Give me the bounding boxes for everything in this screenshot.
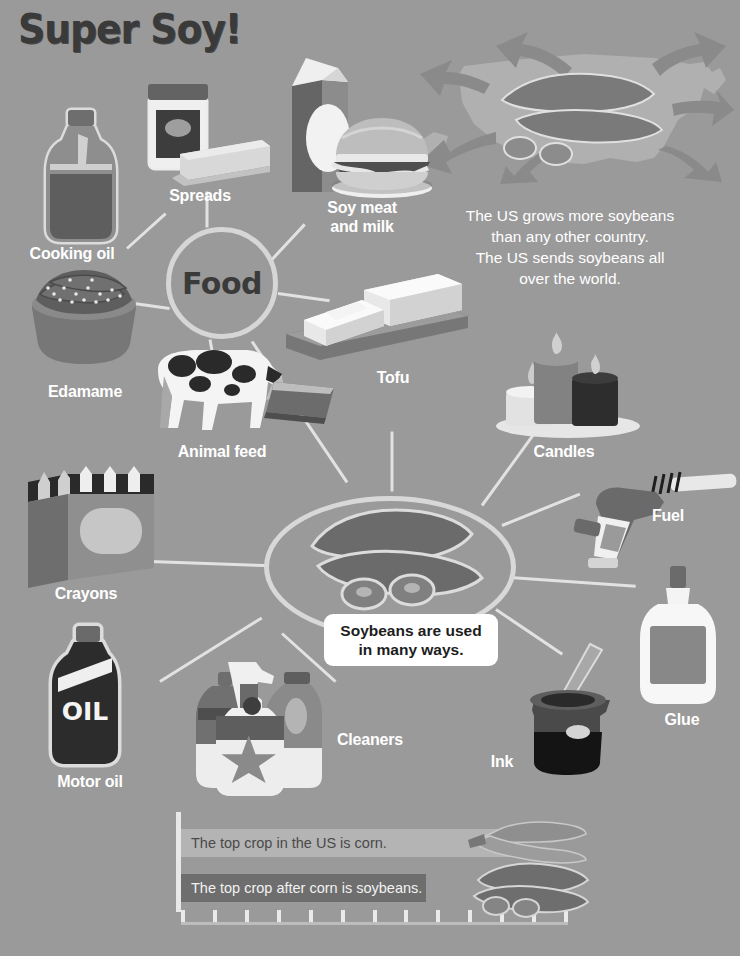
chart-bar-corn: The top crop in the US is corn. [181,829,511,857]
item-animal-feed[interactable] [148,340,338,440]
glue-bottle-icon [636,566,724,716]
item-cleaners[interactable] [196,650,328,798]
chart-bar-soybeans-label: The top crop after corn is soybeans. [181,880,422,896]
cow-trough-icon [148,340,338,440]
label-cooking-oil: Cooking oil [8,244,136,263]
item-motor-oil[interactable]: OIL [44,624,134,770]
page-title: Super Soy! [18,6,241,52]
label-motor-oil: Motor oil [30,772,150,791]
crayon-box-icon [22,468,162,592]
item-crayons[interactable] [22,468,162,592]
oil-bottle-icon [38,108,124,248]
motor-oil-bottle-icon: OIL [44,624,134,770]
jar-and-butter-icon [144,80,274,190]
label-candles: Candles [504,442,624,461]
chart-bar-corn-label: The top crop in the US is corn. [181,835,387,851]
cleaning-bottles-icon [196,650,328,798]
soybeans-callout: Soybeans are used in many ways. [324,614,498,666]
label-soy-meat-and-milk: Soy meat and milk [296,198,428,236]
label-fuel: Fuel [636,506,700,525]
label-tofu: Tofu [348,368,438,387]
label-cleaners: Cleaners [320,730,420,749]
connector-line [150,560,266,567]
label-ink: Ink [472,752,532,771]
item-candles[interactable] [494,336,640,440]
candles-icon [494,336,640,440]
label-glue: Glue [644,710,720,729]
milk-carton-burger-icon [282,52,432,200]
item-cooking-oil[interactable] [38,108,124,248]
chart-bar-soybeans: The top crop after corn is soybeans. [181,874,426,902]
item-glue[interactable] [636,566,724,716]
item-soy-meat-and-milk[interactable] [282,52,432,200]
label-animal-feed: Animal feed [142,442,302,461]
soybean-pod-icon [300,504,490,616]
chart-x-axis [181,922,568,925]
connector-line [510,576,636,588]
item-edamame[interactable] [26,264,142,368]
item-spreads[interactable] [144,80,274,190]
label-edamame: Edamame [22,382,148,401]
edamame-bowl-icon [26,264,142,368]
label-spreads: Spreads [145,186,255,205]
motor-oil-bottle-text: OIL [62,697,109,726]
label-crayons: Crayons [26,584,146,603]
soybean-pod-icon [470,862,590,918]
hub-food[interactable]: Food [166,227,278,339]
connector-line [391,432,394,492]
us-map-export-graphic [404,24,734,184]
hub-food-label: Food [182,266,262,301]
